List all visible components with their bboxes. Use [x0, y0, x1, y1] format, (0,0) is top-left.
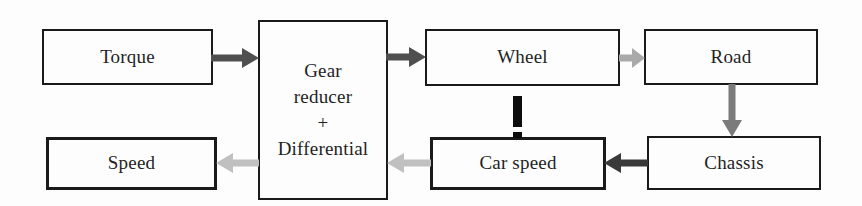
box-gear-reducer-differential: Gear reducer + Differential	[258, 20, 388, 200]
arrow-wheel-to-road	[619, 47, 645, 69]
box-wheel-label: Wheel	[497, 44, 548, 70]
box-car-speed-label: Car speed	[479, 150, 556, 176]
box-speed: Speed	[46, 137, 217, 190]
box-torque-label: Torque	[100, 44, 155, 70]
arrow-car-speed-to-gear-reducer	[387, 151, 431, 175]
box-gear-reducer-differential-label: Gear reducer + Differential	[278, 58, 369, 163]
arrow-torque-to-gear-reducer	[211, 46, 259, 70]
box-wheel: Wheel	[425, 29, 620, 86]
box-road-label: Road	[711, 44, 752, 70]
arrow-chassis-to-car-speed	[604, 151, 648, 175]
arrow-road-to-chassis	[721, 84, 743, 137]
arrow-gear-reducer-to-wheel	[386, 45, 426, 69]
drivetrain-block-diagram: Torque Gear reducer + Differential Wheel…	[0, 0, 862, 206]
box-chassis: Chassis	[647, 136, 821, 190]
arrow-gear-reducer-to-speed	[216, 151, 259, 175]
box-car-speed: Car speed	[430, 137, 606, 190]
dashed-connector-wheel-to-car-speed	[513, 96, 522, 138]
box-speed-label: Speed	[108, 150, 155, 176]
box-torque: Torque	[42, 29, 213, 85]
box-road: Road	[644, 29, 818, 85]
box-chassis-label: Chassis	[704, 150, 763, 176]
